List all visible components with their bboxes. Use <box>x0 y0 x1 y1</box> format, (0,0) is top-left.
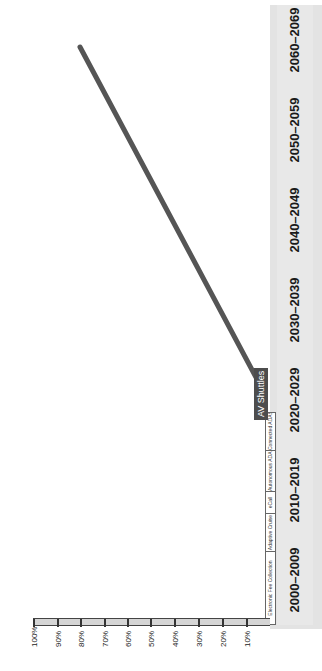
series-label-av-shuttles: AV Shuttles <box>254 368 268 420</box>
plot-area <box>0 0 322 671</box>
rotated-chart: 2000–2009 2010–2019 2020–2029 2030–2039 … <box>0 0 322 671</box>
series-line-av-shuttles <box>80 47 258 381</box>
